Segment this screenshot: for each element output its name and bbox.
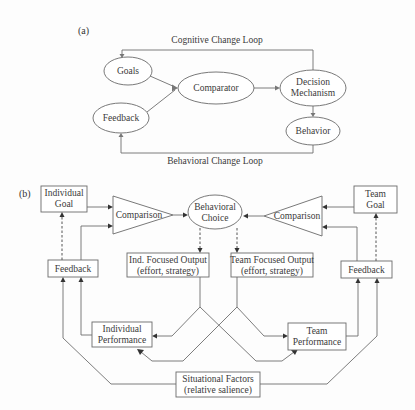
behavioral-loop-label: Behavioral Change Loop	[167, 156, 263, 166]
situational-line1: Situational Factors	[182, 374, 254, 384]
arrowhead-icon	[283, 334, 288, 339]
cognitive-loop-label: Cognitive Change Loop	[171, 35, 263, 45]
team-goal-line1: Team	[365, 189, 387, 199]
panel-a: (a) Cognitive Change Loop Goals Feedback…	[78, 25, 346, 166]
goals-to-comparator	[150, 76, 175, 87]
individual-performance-line1: Individual	[102, 324, 141, 334]
individual-goal-line1: Individual	[44, 188, 83, 198]
team-output-line2: (effort, strategy)	[241, 266, 303, 277]
panel-b-label: (b)	[19, 188, 31, 200]
team-goal-line2: Goal	[366, 200, 385, 210]
arrowhead-icon	[152, 334, 157, 339]
comparison-right-label: Comparison	[274, 211, 321, 221]
individual-goal-line2: Goal	[55, 199, 74, 209]
arrowhead-icon	[375, 278, 380, 283]
arrowhead-icon	[183, 213, 188, 218]
ind-output-line2: (effort, strategy)	[137, 266, 199, 277]
team-performance-to-feedback	[346, 283, 358, 336]
situational-line2: (relative salience)	[184, 385, 252, 396]
feedback-label: Feedback	[103, 113, 140, 123]
arrowhead-icon	[322, 205, 327, 210]
ind-performance-to-feedback	[81, 282, 92, 335]
arrowhead-icon	[61, 277, 66, 282]
arrowhead-icon	[356, 278, 361, 283]
arrowhead-icon	[79, 277, 84, 282]
behavior-label: Behavior	[296, 126, 332, 136]
arrowhead-icon	[108, 224, 113, 229]
feedback-left-label: Feedback	[55, 264, 92, 274]
panel-b: (b) Individual Goal Team Goal Comparison…	[19, 186, 397, 397]
team-performance-line2: Performance	[293, 337, 342, 347]
arrowhead-icon	[275, 86, 280, 91]
team-output-to-ind-performance	[141, 307, 237, 361]
behavioral-loop-connector	[121, 137, 313, 153]
feedback-right-label: Feedback	[348, 265, 385, 275]
team-output-line1: Team Focused Output	[230, 255, 314, 265]
decision-label-line1: Decision	[296, 77, 330, 87]
arrowhead-icon	[60, 212, 65, 217]
arrowhead-icon	[198, 248, 203, 253]
arrowhead-icon	[235, 248, 240, 253]
arrowhead-icon	[108, 205, 113, 210]
arrowhead-icon	[311, 113, 316, 117]
ind-feedback-to-comparison	[81, 226, 109, 260]
arrowhead-icon	[243, 214, 248, 219]
arrowhead-icon	[119, 133, 124, 137]
decision-label-line2: Mechanism	[291, 88, 336, 98]
panel-a-label: (a)	[78, 25, 89, 37]
individual-performance-line2: Performance	[98, 335, 147, 345]
team-output-to-team-performance	[237, 277, 284, 336]
ind-output-to-team-performance	[200, 307, 294, 361]
goals-label: Goals	[117, 66, 139, 76]
behavioral-choice-line2: Choice	[202, 213, 229, 223]
comparator-label: Comparator	[193, 83, 239, 93]
arrowhead-icon	[322, 225, 327, 230]
arrowhead-icon	[374, 213, 379, 218]
comparison-left-label: Comparison	[116, 210, 163, 220]
ind-output-to-ind-performance	[156, 277, 200, 336]
behavioral-choice-node	[188, 195, 242, 229]
diagram-canvas: (a) Cognitive Change Loop Goals Feedback…	[0, 0, 415, 410]
feedback-to-comparator	[147, 90, 175, 112]
behavioral-choice-line1: Behavioral	[194, 202, 236, 212]
team-performance-line1: Team	[307, 326, 329, 336]
ind-output-line1: Ind. Focused Output	[129, 255, 207, 265]
team-feedback-to-comparison	[326, 227, 357, 261]
